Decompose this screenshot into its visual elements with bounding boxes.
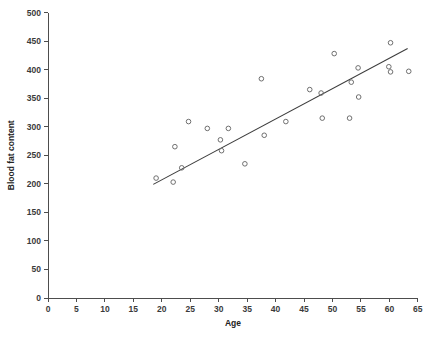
data-point xyxy=(387,64,392,69)
y-tick-label: 0 xyxy=(36,293,41,303)
x-tick-label: 50 xyxy=(328,304,338,314)
x-tick-label: 65 xyxy=(413,304,423,314)
y-tick-label: 150 xyxy=(27,207,41,217)
data-point xyxy=(349,80,354,85)
data-point xyxy=(332,51,337,56)
x-tick-label: 35 xyxy=(242,304,252,314)
data-point xyxy=(347,116,352,121)
data-point xyxy=(226,126,231,131)
data-point xyxy=(173,144,178,149)
data-point xyxy=(356,95,361,100)
data-point xyxy=(388,70,393,75)
y-tick-label: 300 xyxy=(27,122,41,132)
data-point xyxy=(243,162,248,167)
y-tick-label: 50 xyxy=(32,264,42,274)
data-point xyxy=(307,87,312,92)
regression-line xyxy=(153,48,407,184)
y-tick-label: 250 xyxy=(27,150,41,160)
y-axis-title: Blood fat content xyxy=(6,120,16,190)
x-tick-label: 25 xyxy=(186,304,196,314)
x-axis-title: Age xyxy=(225,318,241,328)
y-tick-label: 200 xyxy=(27,179,41,189)
x-tick-label: 20 xyxy=(157,304,167,314)
x-tick-label: 40 xyxy=(271,304,281,314)
x-tick-label: 55 xyxy=(356,304,366,314)
x-tick-label: 30 xyxy=(214,304,224,314)
data-point xyxy=(205,126,210,131)
x-tick-label: 60 xyxy=(385,304,395,314)
x-tick-label: 10 xyxy=(100,304,110,314)
data-point xyxy=(219,148,224,153)
x-tick-label: 45 xyxy=(299,304,309,314)
y-tick-label: 450 xyxy=(27,36,41,46)
y-tick-label: 500 xyxy=(27,8,41,18)
data-point xyxy=(186,119,191,124)
scatter-chart: 0501001502002503003504004505000510152025… xyxy=(0,0,423,338)
data-point xyxy=(154,176,159,181)
data-point xyxy=(320,116,325,121)
data-point xyxy=(284,119,289,124)
data-point xyxy=(406,69,411,74)
plot-area: 0501001502002503003504004505000510152025… xyxy=(0,0,423,338)
data-point xyxy=(356,66,361,71)
y-tick-label: 400 xyxy=(27,65,41,75)
data-point xyxy=(388,40,393,45)
data-point xyxy=(218,138,223,143)
data-point xyxy=(171,180,176,185)
y-tick-label: 100 xyxy=(27,236,41,246)
data-point xyxy=(259,76,264,81)
x-tick-label: 15 xyxy=(129,304,139,314)
x-tick-label: 5 xyxy=(74,304,79,314)
data-point xyxy=(262,133,267,138)
x-tick-label: 0 xyxy=(46,304,51,314)
y-tick-label: 350 xyxy=(27,93,41,103)
